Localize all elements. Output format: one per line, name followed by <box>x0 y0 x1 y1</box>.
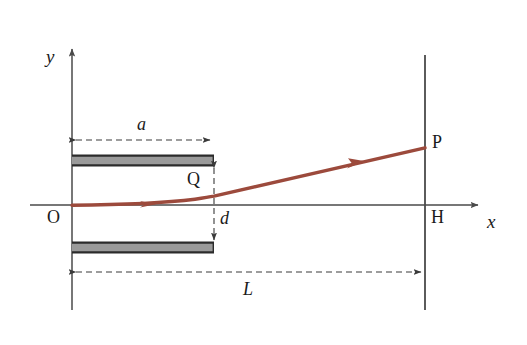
dimension-a-label: a <box>137 115 146 133</box>
screen-hit-label: P <box>432 133 442 151</box>
y-axis-label: y <box>46 47 54 66</box>
dimension-d-label: d <box>220 209 229 227</box>
origin-label: O <box>47 208 60 226</box>
plate-exit-label: Q <box>187 170 200 188</box>
lower-plate <box>72 242 214 253</box>
screen-foot-label: H <box>431 208 444 226</box>
diagram-canvas <box>0 0 527 345</box>
x-axis-label: x <box>487 212 495 231</box>
dimension-L-label: L <box>243 280 253 298</box>
physics-diagram-figure: y x O Q H P a d L <box>0 0 527 345</box>
upper-plate <box>72 155 214 166</box>
